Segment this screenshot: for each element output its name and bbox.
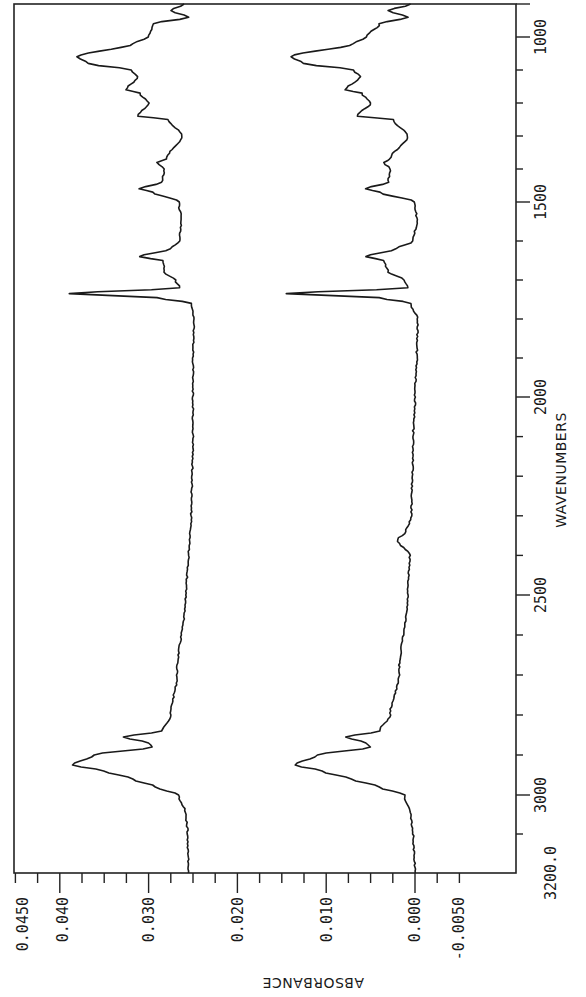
absorbance-tick-label: 0.0450 [14,897,32,951]
wavenumber-tick-label: 2000 [532,379,550,415]
absorbance-tick-label: 0.010 [318,897,336,942]
absorbance-tick-label: 0.020 [229,897,247,942]
plot-frame [14,4,516,873]
absorbance-tick-label: 0.040 [54,897,72,942]
wavenumber-tick-label: 3000 [532,777,550,813]
wavenumber-tick-label: 3200.0 [542,846,560,900]
wavenumber-tick-label: 2500 [532,577,550,613]
absorbance-tick-label: 0.000 [406,897,424,942]
upper-spectrum-trace [69,4,194,873]
lower-spectrum-trace [286,4,418,873]
absorbance-axis: 0.04500.0400.0300.0200.0100.000-0.0050 [14,873,468,960]
ir-spectrum-chart: 100015002000250030003200.0 0.04500.0400.… [0,0,586,997]
absorbance-axis-title: ABSORBANCE [262,975,364,991]
absorbance-tick-label: -0.0050 [450,897,468,960]
wavenumber-tick-label: 1500 [532,184,550,220]
wavenumber-tick-label: 1000 [532,19,550,55]
wavenumber-axis-title: WAVENUMBERS [553,412,569,528]
absorbance-tick-label: 0.030 [140,897,158,942]
